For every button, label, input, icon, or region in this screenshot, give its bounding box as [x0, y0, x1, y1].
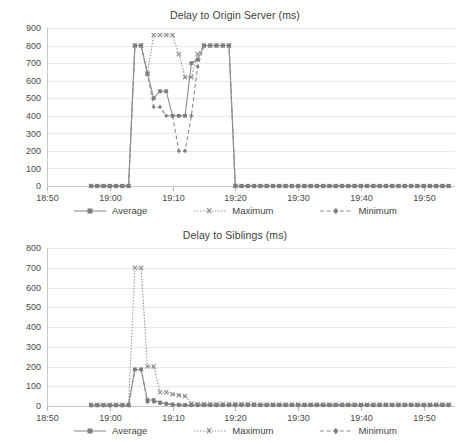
data-point-marker — [202, 44, 206, 48]
data-point-marker — [152, 398, 156, 402]
legend-item-minimum[interactable]: Minimum — [319, 425, 397, 436]
data-point-marker — [158, 33, 162, 37]
x-tick-label: 19:40 — [350, 413, 373, 423]
data-point-marker — [309, 403, 313, 407]
data-point-marker — [397, 184, 401, 188]
legend-line-solid-icon — [73, 206, 107, 216]
data-point-marker — [365, 184, 369, 188]
data-point-marker — [139, 368, 143, 372]
data-point-marker — [164, 33, 168, 37]
data-point-marker — [384, 403, 388, 407]
data-point-marker — [152, 33, 156, 37]
data-point-marker — [365, 403, 369, 407]
data-point-marker — [277, 184, 281, 188]
data-point-marker — [215, 44, 219, 48]
data-point-marker — [340, 184, 344, 188]
y-tick-label: 700 — [26, 263, 41, 273]
legend-siblings: Average Maximum Minimum — [0, 425, 470, 436]
data-point-marker — [164, 89, 168, 93]
plot-area-origin: 010020030040050060070080090018:5019:0019… — [0, 0, 470, 221]
data-point-marker — [309, 184, 313, 188]
x-tick-label: 19:00 — [99, 193, 122, 203]
legend-item-average[interactable]: Average — [73, 425, 147, 436]
data-point-marker — [403, 184, 407, 188]
data-point-marker — [102, 184, 106, 188]
data-point-marker — [328, 403, 332, 407]
x-tick-label: 19:10 — [162, 193, 185, 203]
chart-delay-to-origin-server: Delay to Origin Server (ms) 010020030040… — [0, 0, 470, 221]
data-point-marker — [196, 58, 200, 62]
data-point-marker — [183, 75, 187, 79]
data-point-marker — [284, 403, 288, 407]
legend-item-maximum[interactable]: Maximum — [193, 425, 273, 436]
data-point-marker — [196, 64, 200, 69]
y-tick-label: 600 — [26, 283, 41, 293]
data-point-marker — [221, 403, 225, 407]
legend-item-average[interactable]: Average — [73, 205, 147, 216]
data-point-marker — [397, 403, 401, 407]
data-point-marker — [189, 403, 193, 407]
data-point-marker — [415, 403, 419, 407]
data-point-marker — [227, 44, 231, 48]
data-point-marker — [372, 403, 376, 407]
data-point-marker — [390, 403, 394, 407]
data-point-marker — [265, 184, 269, 188]
data-point-marker — [296, 403, 300, 407]
data-point-marker — [246, 403, 250, 407]
data-point-marker — [233, 184, 237, 188]
y-tick-label: 800 — [26, 41, 41, 51]
data-point-marker — [328, 184, 332, 188]
x-tick-label: 19:20 — [224, 413, 247, 423]
data-point-marker — [415, 184, 419, 188]
data-point-marker — [133, 368, 137, 372]
y-tick-label: 900 — [26, 23, 41, 33]
data-point-marker — [246, 184, 250, 188]
data-point-marker — [127, 403, 131, 407]
legend-line-solid-icon — [73, 426, 107, 436]
y-tick-label: 100 — [26, 164, 41, 174]
legend-line-dotted-icon — [193, 426, 227, 436]
data-point-marker — [334, 184, 338, 188]
data-point-marker — [334, 403, 338, 407]
data-point-marker — [353, 184, 357, 188]
y-tick-label: 200 — [26, 146, 41, 156]
x-tick-label: 18:50 — [36, 193, 59, 203]
data-point-marker — [120, 403, 124, 407]
x-tick-label: 19:10 — [162, 413, 185, 423]
series-maximum — [89, 266, 451, 407]
data-point-marker — [158, 401, 162, 405]
y-tick-label: 300 — [26, 129, 41, 139]
data-point-marker — [208, 403, 212, 407]
data-point-marker — [114, 184, 118, 188]
data-point-marker — [428, 184, 432, 188]
plot-area-siblings: 010020030040050060070080018:5019:0019:10… — [0, 221, 470, 442]
y-tick-label: 800 — [26, 243, 41, 253]
data-point-marker — [146, 72, 150, 76]
legend-item-maximum[interactable]: Maximum — [193, 205, 273, 216]
data-point-marker — [359, 403, 363, 407]
data-point-marker — [120, 184, 124, 188]
y-tick-label: 100 — [26, 381, 41, 391]
data-point-marker — [346, 403, 350, 407]
x-tick-label: 19:40 — [350, 193, 373, 203]
data-point-marker — [259, 403, 263, 407]
data-point-marker — [372, 184, 376, 188]
data-point-marker — [384, 184, 388, 188]
legend-label-average: Average — [112, 205, 147, 216]
data-point-marker — [252, 403, 256, 407]
x-tick-label: 19:30 — [287, 413, 310, 423]
data-point-marker — [315, 403, 319, 407]
data-point-marker — [240, 184, 244, 188]
data-point-marker — [164, 113, 168, 118]
data-point-marker — [434, 403, 438, 407]
data-point-marker — [290, 184, 294, 188]
legend-line-dotted-icon — [193, 206, 227, 216]
data-point-marker — [177, 149, 181, 154]
data-point-marker — [152, 96, 156, 100]
data-point-marker — [265, 403, 269, 407]
legend-line-dashed-icon — [319, 426, 353, 436]
legend-item-minimum[interactable]: Minimum — [319, 205, 397, 216]
x-tick-label: 19:30 — [287, 193, 310, 203]
x-tick-label: 19:20 — [224, 193, 247, 203]
data-point-marker — [296, 184, 300, 188]
